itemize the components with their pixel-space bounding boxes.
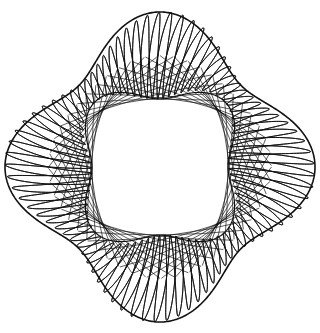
spirograph-pattern [0, 0, 320, 333]
pattern-figure: Four-lobed spirograph-style string-art p… [0, 0, 320, 333]
